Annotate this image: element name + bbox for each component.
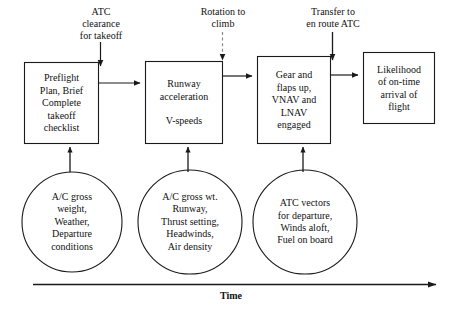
- process-box-preflight: [25, 63, 99, 144]
- process-box-runway: [146, 62, 223, 144]
- diagram-canvas: Preflight Plan, Brief Complete takeoff c…: [0, 0, 454, 318]
- event-label-transfer: Transfer to en route ATC: [282, 6, 384, 30]
- process-box-climbout: [258, 57, 331, 144]
- process-box-outcome: [364, 53, 435, 124]
- input-circle-runway: [138, 170, 242, 274]
- input-circle-climbout: [253, 170, 357, 274]
- event-label-rotation: Rotation to climb: [177, 6, 269, 30]
- diagram-vector-layer: [0, 0, 454, 318]
- time-axis-label: Time: [195, 290, 267, 301]
- event-label-atc-clearance: ATC clearance for takeoff: [58, 6, 144, 43]
- input-circle-preflight: [22, 172, 122, 272]
